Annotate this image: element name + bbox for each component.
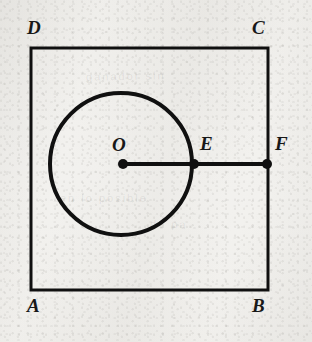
vertex-label-b: B (252, 296, 265, 315)
point-dot-e (189, 159, 199, 169)
square-abcd (31, 48, 268, 290)
square-outline (31, 48, 268, 290)
point-label-f: F (275, 134, 288, 153)
point-dot-o (118, 159, 128, 169)
vertex-label-d: D (27, 18, 41, 37)
vertex-label-a: A (27, 296, 40, 315)
point-dot-f (262, 159, 272, 169)
point-label-o: O (112, 135, 126, 154)
vertex-label-c: C (252, 18, 265, 37)
geometry-figure: ganador sinen lo posiblede pa OEFABCD (0, 0, 312, 342)
point-label-e: E (200, 134, 213, 153)
figure-canvas (0, 0, 312, 342)
